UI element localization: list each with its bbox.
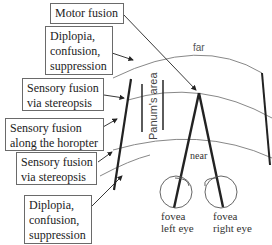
- box-text: Sensory fusion: [27, 81, 99, 96]
- left-eye-name: left eye: [161, 222, 194, 234]
- box-text: confusion,: [29, 213, 87, 228]
- diplopia-lower-box: Diplopia, confusion, suppression: [24, 195, 92, 244]
- box-text: Diplopia,: [50, 29, 108, 44]
- diplopia-upper-box: Diplopia, confusion, suppression: [45, 26, 113, 75]
- box-text: Motor fusion: [55, 6, 119, 21]
- box-text: Sensory fusion: [21, 155, 92, 170]
- box-text: via stereopsis: [21, 170, 92, 185]
- box-text: Sensory fusion: [10, 121, 99, 136]
- near-label: near: [190, 150, 207, 162]
- lower-arc: [100, 155, 150, 176]
- left-boundary-line: [114, 79, 131, 190]
- right-eye-fovea: fovea: [213, 210, 252, 222]
- motor-fusion-box: Motor fusion: [50, 3, 124, 24]
- sensory-stereopsis-upper-box: Sensory fusion via stereopsis: [22, 78, 104, 111]
- right-boundary-line: [262, 73, 270, 165]
- left-eye-label: fovea left eye: [161, 210, 194, 234]
- left-eye-fovea: fovea: [161, 210, 194, 222]
- right-eye-name: right eye: [213, 222, 252, 234]
- box-text: Diplopia,: [29, 198, 87, 213]
- sensory-stereopsis-lower-box: Sensory fusion via stereopsis: [16, 152, 97, 185]
- box-text: via stereopsis: [27, 96, 99, 111]
- panum-area-label: Panum's area: [147, 72, 159, 140]
- box-text: along the horopter: [10, 136, 99, 151]
- sensory-horopter-box: Sensory fusion along the horopter: [5, 118, 104, 151]
- box-text: suppression: [50, 59, 108, 74]
- far-arc: [113, 55, 262, 78]
- far-label: far: [193, 42, 205, 54]
- right-eye-label: fovea right eye: [213, 210, 252, 234]
- box-text: confusion,: [50, 44, 108, 59]
- box-text: suppression: [29, 228, 87, 243]
- binocular-vision-diagram: Motor fusion Diplopia, confusion, suppre…: [0, 0, 272, 245]
